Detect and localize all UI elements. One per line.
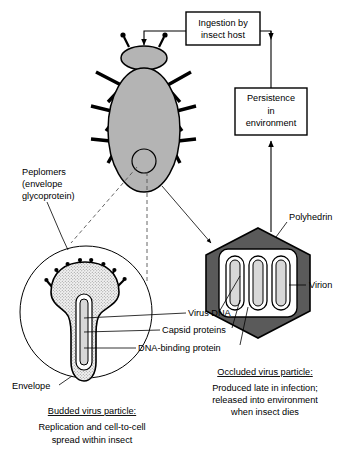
- caption-budded: Budded virus particle: Replication and c…: [38, 406, 145, 445]
- arrow-persistence-to-ingestion: [260, 31, 271, 88]
- insect-antenna-right-tip: [162, 32, 167, 37]
- occluded-caption-line-3: when insect dies: [230, 407, 299, 417]
- insect-head: [121, 46, 167, 70]
- callout-virus-dna: Virus DNA: [188, 308, 232, 318]
- insect-antenna-left-tip: [120, 32, 125, 37]
- insect-host: [91, 32, 196, 192]
- arrow-insect-to-occluded-particle: [162, 186, 211, 243]
- magnify-leader-left: [71, 167, 137, 243]
- occluded-virus-particle: [206, 228, 310, 338]
- callout-peplomers: Peplomers (envelope glycoprotein): [22, 167, 75, 201]
- ingestion-label-line-1: Ingestion by: [198, 18, 248, 28]
- insect-antenna-right: [159, 37, 164, 47]
- leader-peplomers: [47, 202, 68, 250]
- callout-dna-binding-protein: DNA-binding protein: [138, 343, 221, 353]
- callout-envelope: Envelope: [12, 381, 50, 391]
- budded-caption-line-1: Replication and cell-to-cell: [38, 422, 145, 432]
- virion-2-core: [253, 260, 263, 306]
- peplomers-line-3: glycoprotein): [22, 191, 75, 201]
- caption-occluded: Occluded virus particle: Produced late i…: [212, 367, 318, 417]
- callout-virion: Virion: [309, 280, 332, 290]
- leader-polyhedrin: [276, 222, 287, 237]
- ingestion-label-line-2: insect host: [201, 30, 245, 40]
- budded-caption-line-2: spread within insect: [52, 435, 133, 445]
- virion-3-core: [276, 260, 286, 306]
- peplomers-line-2: (envelope: [22, 179, 62, 189]
- persistence-label-line-2: in: [267, 106, 274, 116]
- arrowhead-into-ingestion: [268, 33, 273, 40]
- peplomers-line-1: Peplomers: [22, 167, 66, 177]
- persistence-label-line-1: Persistence: [247, 93, 295, 103]
- baculovirus-cycle-figure: Ingestion by insect host Persistence in …: [0, 0, 358, 453]
- occluded-caption-heading: Occluded virus particle:: [217, 367, 313, 377]
- callout-capsid-proteins: Capsid proteins: [162, 325, 226, 335]
- flow-box-ingestion: Ingestion by insect host: [186, 12, 260, 45]
- occluded-caption-line-1: Produced late in infection;: [212, 383, 318, 393]
- budded-virus-particle: [20, 246, 152, 381]
- virion-1-core: [230, 260, 240, 306]
- persistence-label-line-3: environment: [246, 118, 297, 128]
- insect-antenna-left: [124, 37, 129, 47]
- diagram-root: Ingestion by insect host Persistence in …: [0, 0, 358, 453]
- occluded-caption-line-2: released into environment: [212, 395, 318, 405]
- flow-box-persistence: Persistence in environment: [235, 88, 307, 135]
- callout-polyhedrin: Polyhedrin: [289, 212, 332, 222]
- leader-envelope: [59, 376, 72, 385]
- budded-caption-heading: Budded virus particle:: [48, 406, 136, 416]
- insect-infected-cell: [132, 149, 156, 173]
